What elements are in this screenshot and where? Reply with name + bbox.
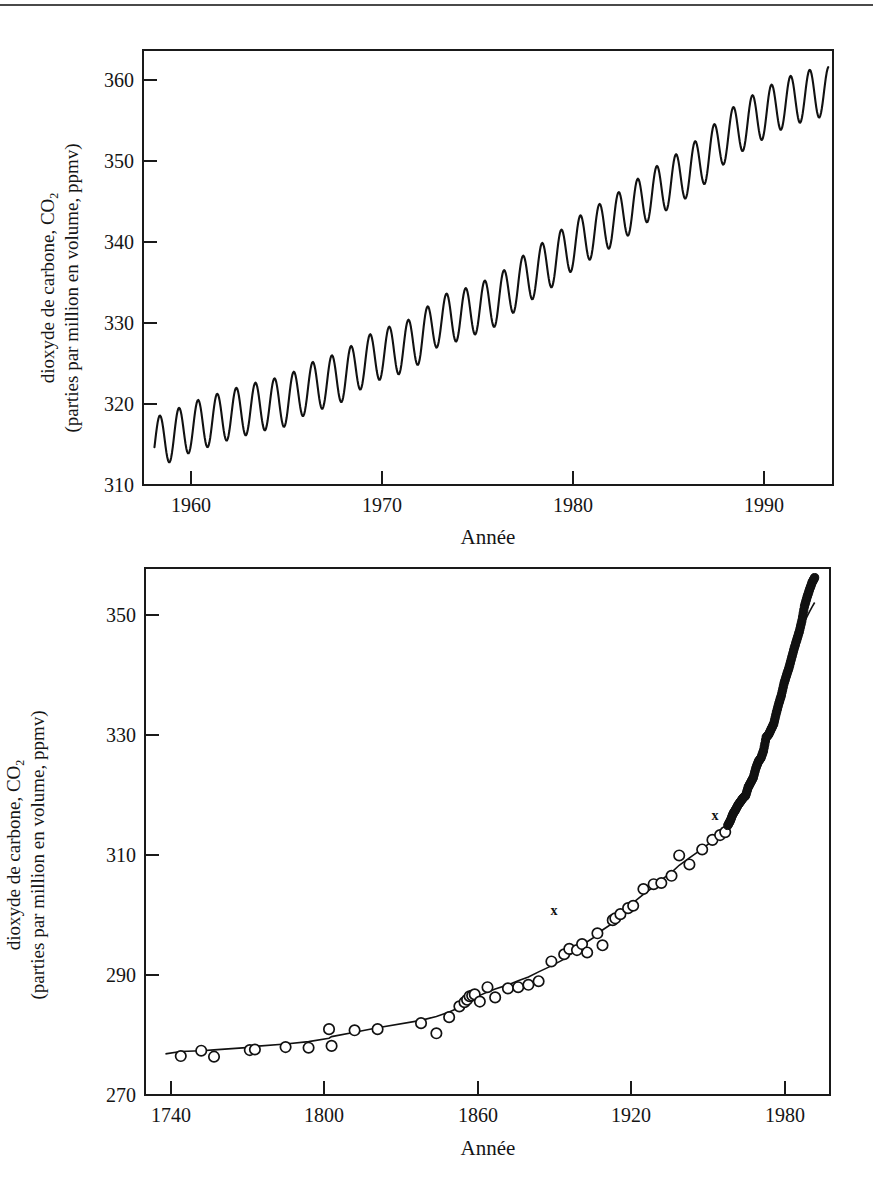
data-point-ice-core — [490, 992, 500, 1002]
y-tick-label-310: 310 — [106, 844, 136, 866]
x-axis-title-bottom: Année — [461, 1136, 516, 1160]
data-point-ice-core — [372, 1024, 382, 1034]
keeling-curve-line — [154, 67, 828, 462]
x-ticks-bottom: 1740 1800 1860 1920 1980 — [151, 1081, 805, 1126]
data-point-ice-core — [592, 928, 602, 938]
x-tick-label-1800: 1800 — [304, 1104, 344, 1126]
svg-text:dioxyde de carbone, CO2: dioxyde de carbone, CO2 — [37, 193, 61, 384]
y-axis-title-bottom: dioxyde de carbone, CO2 (parties par mil… — [3, 710, 49, 999]
data-point-ice-core — [697, 844, 707, 854]
y-tick-label-330: 330 — [106, 724, 136, 746]
x-tick-label-1920: 1920 — [611, 1104, 651, 1126]
x-tick-label-1960: 1960 — [171, 494, 211, 516]
chart-top-svg: dioxyde de carbone, CO2 (parties par mil… — [0, 20, 873, 560]
data-point-ice-core — [324, 1024, 334, 1034]
x-tick-label-1740: 1740 — [151, 1104, 191, 1126]
data-point-ice-core — [503, 983, 513, 993]
data-point-ice-core — [326, 1041, 336, 1051]
y-ticks-bottom: 270 290 310 330 350 — [106, 604, 159, 1106]
x-tick-label-1860: 1860 — [458, 1104, 498, 1126]
data-point-ice-core — [431, 1028, 441, 1038]
chart-bottom-svg: dioxyde de carbone, CO2 (parties par mil… — [0, 555, 873, 1180]
data-point-ice-core — [250, 1044, 260, 1054]
data-point-ice-core — [416, 1018, 426, 1028]
y-tick-label-320: 320 — [104, 393, 134, 415]
data-point-ice-core — [533, 976, 543, 986]
chart-ice-core-and-modern: dioxyde de carbone, CO2 (parties par mil… — [0, 555, 873, 1180]
x-axis-title-top: Année — [461, 525, 516, 549]
data-point-ice-core — [513, 982, 523, 992]
y-tick-label-270: 270 — [106, 1084, 136, 1106]
x-tick-label-1970: 1970 — [362, 494, 402, 516]
y-tick-label-310: 310 — [104, 474, 134, 496]
x-tick-label-1980: 1980 — [553, 494, 593, 516]
svg-text:dioxyde de carbone, CO2: dioxyde de carbone, CO2 — [3, 760, 27, 951]
data-point-ice-core — [684, 859, 694, 869]
data-point-ice-core — [523, 980, 533, 990]
data-point-ice-core — [444, 1012, 454, 1022]
y-axis-title-top-line2: (parties par million en volume, ppmv) — [61, 143, 83, 432]
y-axis-title-top-line1: dioxyde de carbone, CO — [37, 199, 58, 384]
y-tick-label-340: 340 — [104, 231, 134, 253]
data-point-ice-core — [628, 901, 638, 911]
data-point-ice-core — [176, 1051, 186, 1061]
x-marker-label: x — [711, 808, 718, 823]
data-point-ice-core — [674, 850, 684, 860]
ice-core-data-points — [176, 827, 731, 1062]
y-tick-label-360: 360 — [104, 69, 134, 91]
x-ticks-top: 1960 1970 1980 1990 — [171, 471, 784, 516]
y-tick-label-290: 290 — [106, 964, 136, 986]
data-point-ice-core — [656, 878, 666, 888]
x-tick-label-1980: 1980 — [765, 1104, 805, 1126]
x-tick-label-1990: 1990 — [744, 494, 784, 516]
y-ticks-top: 310 320 330 340 350 360 — [104, 69, 157, 496]
y-axis-title-bottom-line2: (parties par million en volume, ppmv) — [27, 710, 49, 999]
data-point-ice-core — [303, 1042, 313, 1052]
top-horizontal-rule — [0, 4, 873, 6]
data-point-ice-core — [349, 1025, 359, 1035]
y-tick-label-330: 330 — [104, 312, 134, 334]
data-point-ice-core — [196, 1045, 206, 1055]
y-axis-title-bottom-line1: dioxyde de carbone, CO — [3, 766, 24, 951]
data-point-ice-core — [666, 871, 676, 881]
y-tick-label-350: 350 — [104, 150, 134, 172]
y-axis-title-bottom-sub: 2 — [13, 760, 27, 766]
x-marker-label: x — [550, 903, 557, 918]
data-point-ice-core — [280, 1042, 290, 1052]
data-point-ice-core — [475, 996, 485, 1006]
data-point-ice-core — [209, 1051, 219, 1061]
modern-data-points — [724, 573, 819, 829]
data-point-modern — [811, 573, 819, 581]
y-axis-title-top: dioxyde de carbone, CO2 (parties par mil… — [37, 143, 83, 432]
data-point-ice-core — [597, 940, 607, 950]
y-axis-title-top-sub: 2 — [47, 193, 61, 199]
y-tick-label-350: 350 — [106, 604, 136, 626]
data-point-ice-core — [482, 982, 492, 992]
data-point-ice-core — [638, 884, 648, 894]
figure-page: dioxyde de carbone, CO2 (parties par mil… — [0, 0, 873, 1180]
data-point-ice-core — [546, 956, 556, 966]
plot-frame-top — [143, 50, 833, 485]
data-point-ice-core — [582, 947, 592, 957]
chart-mauna-loa-monthly: dioxyde de carbone, CO2 (parties par mil… — [0, 20, 873, 560]
